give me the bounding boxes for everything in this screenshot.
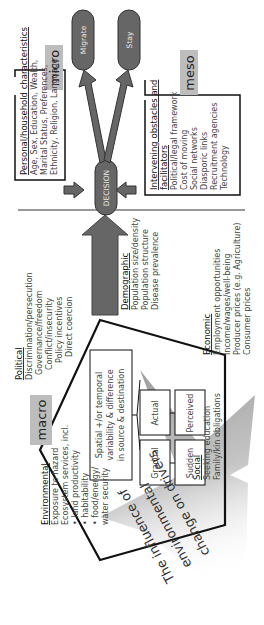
- spatial-text-3: in source & destination: [117, 369, 126, 462]
- demographic-title: Demographic: [120, 253, 130, 310]
- economic-line: Employment opportunities: [213, 249, 222, 355]
- political-line: Policy incentives: [55, 297, 64, 363]
- macro-label: macro: [34, 400, 49, 441]
- micro-line: Age, Sex, Education, Wealth,: [30, 60, 39, 175]
- migrate-label: Migrate: [79, 25, 88, 54]
- decision-label: DECISION: [102, 170, 111, 206]
- meso-title: facilitators: [159, 144, 169, 190]
- to-stay-arrow: [104, 70, 133, 163]
- meso-line: Recruitment agencies: [210, 103, 219, 190]
- meso-line: Social networks: [190, 127, 199, 190]
- economic-title: Economic: [202, 314, 212, 355]
- demographic-line: Disease prevalence: [151, 232, 160, 310]
- stay-label: Stay: [125, 31, 134, 48]
- environmental-line: water security: [101, 467, 110, 525]
- meso-to-decision-arrow: [116, 182, 136, 198]
- political-line: Direct coercion: [65, 297, 74, 357]
- cell-actual-label: Actual: [151, 400, 160, 425]
- to-migrate-arrow: [79, 70, 106, 163]
- spatial-text-1: Spatial +/or temporal: [95, 372, 104, 458]
- meso-line: Cost of moving: [180, 130, 189, 190]
- environmental-title: Environmental: [40, 463, 50, 525]
- environmental-line: • land productivity: [71, 450, 80, 525]
- environmental-line: • habitability: [81, 473, 90, 525]
- economic-line: Income/wages/well-being: [223, 253, 232, 355]
- micro-to-decision-arrow: [64, 182, 84, 198]
- social-title: Social: [192, 455, 202, 480]
- meso-label: meso: [182, 55, 197, 90]
- micro-line: Marital Status, Preferences,: [40, 65, 49, 175]
- political-line: Discrimination/persecution: [25, 272, 34, 380]
- social-line: Family/kin obligations: [213, 393, 222, 480]
- meso-line: Technology: [220, 145, 229, 191]
- economic-line: Producer prices (e.g. Agriculture): [233, 223, 242, 355]
- environmental-line: Exposure to hazard: [51, 448, 60, 525]
- environmental-line: Ecosystem services, incl.: [61, 425, 70, 525]
- meso-line: Diasporic links: [200, 132, 209, 190]
- meso-title: Intervening obstacles and: [149, 80, 159, 190]
- political-line: Governance/freedom: [35, 290, 44, 375]
- micro-line: Ethnicity, Religion, Language: [50, 58, 59, 175]
- demographic-line: Population size/density: [131, 218, 140, 310]
- political-line: Conflict/insecurity: [45, 297, 54, 370]
- branch-lines: [132, 380, 140, 450]
- spatial-text-2: variability & difference: [106, 369, 115, 460]
- economic-line: Consumer prices: [243, 288, 252, 355]
- cell-perceived-label: Perceived: [186, 394, 195, 433]
- political-title: Political: [14, 347, 24, 380]
- social-line: Seeking education: [203, 406, 212, 480]
- meso-line: Political/legal framework: [170, 91, 179, 190]
- demographic-line: Population structure: [141, 229, 150, 310]
- micro-title: Personal/household characteristics: [19, 26, 29, 175]
- diagram-stage: macro Spatial +/or temporal variability …: [0, 0, 264, 625]
- environmental-line: • food/energy/: [91, 466, 100, 525]
